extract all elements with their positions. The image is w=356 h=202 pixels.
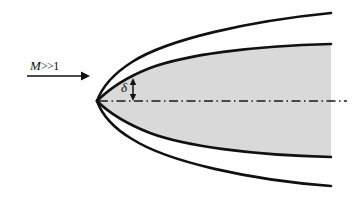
mach-symbol: M (30, 58, 41, 73)
mach-relation-symbol: >> (41, 59, 53, 73)
mach-number-label: M>>1 (30, 59, 59, 72)
diagram-canvas (0, 0, 356, 202)
hypersonic-shock-layer-figure: M>>1 δ (0, 0, 356, 202)
mach-value: 1 (53, 59, 59, 73)
flow-arrow-head-icon (81, 72, 90, 81)
delta-thickness-label: δ (121, 81, 127, 94)
